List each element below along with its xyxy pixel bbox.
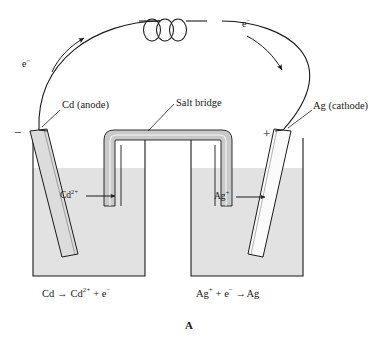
figure-label: A <box>185 320 193 331</box>
electron-label-right: e− <box>242 18 250 29</box>
anode-label: Cd (anode) <box>62 100 109 111</box>
reduction-arrow: → <box>236 288 247 299</box>
electron-flow-arrow-right <box>247 36 282 70</box>
reduction-reactant-charge: + <box>209 286 213 293</box>
right-beaker-solution <box>191 168 303 276</box>
coil-icon <box>139 19 207 41</box>
connecting-wire <box>39 21 310 131</box>
galvanic-cell-figure: Cd (anode) Ag (cathode) Salt bridge e− e… <box>0 0 382 343</box>
reduction-reactant-species: Ag <box>196 288 209 299</box>
electron-label-left: e− <box>22 58 30 69</box>
silver-ion-label: Ag+ <box>214 190 229 202</box>
oxidation-plus: + <box>93 288 99 299</box>
electron-charge-right: − <box>246 17 250 24</box>
salt-bridge-label: Salt bridge <box>176 98 222 109</box>
negative-terminal-label: − <box>14 126 21 139</box>
cathode-label: Ag (cathode) <box>313 101 368 112</box>
reduction-product: Ag <box>247 288 260 299</box>
electron-charge-left: − <box>26 57 30 64</box>
cadmium-ion-charge: 2+ <box>71 188 78 195</box>
leader-line-anode <box>42 110 60 127</box>
cadmium-ion-label: Cd2+ <box>60 189 78 201</box>
oxidation-product-charge: 2+ <box>83 286 91 293</box>
reduction-plus: + <box>216 288 222 299</box>
silver-ion-symbol: Ag <box>214 191 226 201</box>
oxidation-product-species: Cd <box>71 288 83 299</box>
silver-ion-charge: + <box>226 189 230 196</box>
oxidation-equation: Cd → Cd2+ + e− <box>42 287 111 299</box>
positive-terminal-label: + <box>263 127 270 140</box>
oxidation-arrow: → <box>57 288 68 299</box>
oxidation-reactant: Cd <box>42 288 54 299</box>
reduction-electron-charge: − <box>229 286 233 293</box>
reduction-equation: Ag+ + e− →Ag <box>196 287 259 299</box>
cadmium-ion-symbol: Cd <box>60 190 71 200</box>
oxidation-electron-charge: − <box>106 286 110 293</box>
leader-line-salt-bridge <box>148 104 174 131</box>
